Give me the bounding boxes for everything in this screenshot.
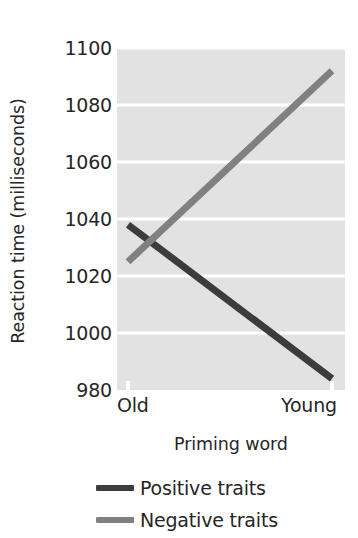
x-tick-label-old: Old: [117, 396, 149, 415]
legend-item-negative-traits: Negative traits: [96, 504, 358, 536]
y-tick-label: 1080: [24, 96, 112, 115]
y-tick-label: 1000: [24, 324, 112, 343]
legend-label-positive-traits: Positive traits: [140, 479, 266, 498]
legend-swatch-positive-traits: [96, 485, 134, 491]
legend-item-positive-traits: Positive traits: [96, 472, 358, 504]
x-tick-mark-old: [126, 381, 130, 391]
y-tick-label: 1020: [24, 267, 112, 286]
y-axis-tick-labels: 1100 1080 1060 1040 1020 1000 980: [24, 0, 112, 538]
y-tick-label: 1060: [24, 153, 112, 172]
series-line-negative-traits: [128, 71, 332, 262]
legend-label-negative-traits: Negative traits: [140, 511, 278, 530]
chart-figure: Reaction time (milliseconds) 1100 1080 1…: [0, 0, 358, 538]
x-axis-title: Priming word: [117, 434, 345, 454]
x-tick-label-young: Young: [281, 396, 337, 415]
x-tick-mark-young: [330, 381, 334, 391]
y-tick-label: 1040: [24, 210, 112, 229]
legend-swatch-negative-traits: [96, 517, 134, 523]
plot-area: [117, 48, 345, 390]
y-tick-label: 980: [24, 381, 112, 400]
chart-legend: Positive traits Negative traits: [96, 472, 358, 536]
series-line-positive-traits: [128, 225, 332, 379]
y-tick-label: 1100: [24, 39, 112, 58]
series-lines: [117, 48, 345, 390]
